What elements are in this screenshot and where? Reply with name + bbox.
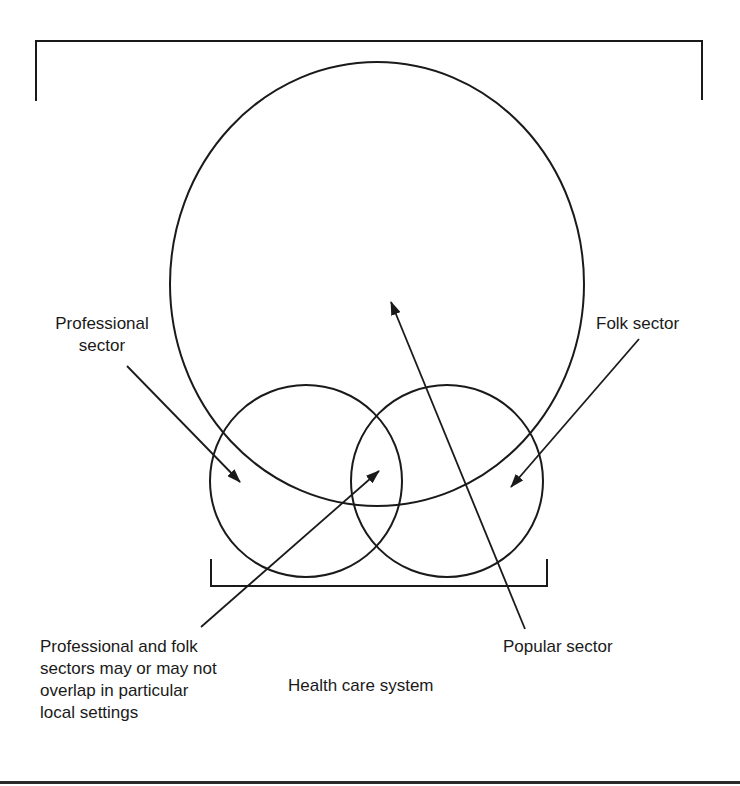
professional-sector-label-line: sector — [40, 335, 164, 357]
professional-sector-label: Professional sector — [40, 313, 164, 357]
health-care-system-label: Health care system — [288, 675, 434, 697]
popular-sector-arrow — [391, 302, 525, 629]
overlap-note-line: overlap in particular — [40, 680, 217, 702]
overlap-note-line: sectors may or may not — [40, 658, 217, 680]
overlap-arrow — [201, 471, 379, 627]
professional-sector-arrow — [127, 366, 240, 482]
professional-sector-label-line: Professional — [40, 313, 164, 335]
overlap-note-line: local settings — [40, 702, 217, 724]
folk-sector-label: Folk sector — [596, 313, 679, 335]
outer-bracket — [36, 41, 702, 101]
folk-sector-circle — [351, 385, 543, 577]
page-bottom-rule — [0, 781, 740, 784]
folk-sector-arrow — [511, 339, 639, 487]
popular-sector-circle — [170, 62, 584, 506]
popular-sector-label: Popular sector — [503, 636, 613, 658]
overlap-note-line: Professional and folk — [40, 636, 217, 658]
overlap-note-label: Professional and folk sectors may or may… — [40, 636, 217, 724]
